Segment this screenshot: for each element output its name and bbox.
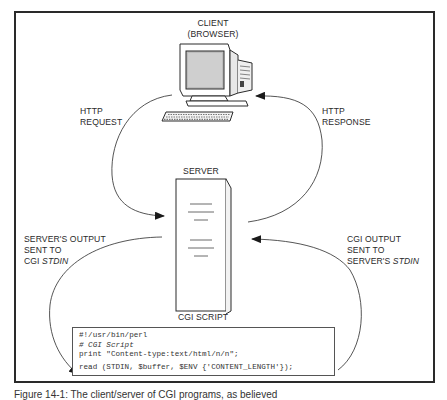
client-label-line2: (BROWSER) <box>183 29 243 40</box>
http-request-line1: HTTP <box>80 106 122 117</box>
server-label: SERVER <box>171 166 231 177</box>
computer-icon <box>162 44 252 121</box>
server-icon <box>176 179 231 314</box>
figure-caption: Figure 14-1: The client/server of CGI pr… <box>14 389 277 400</box>
http-response-arrow <box>248 96 322 222</box>
cgi-script-code-box: #!/usr/bin/perl # CGI Script print "Cont… <box>72 327 335 376</box>
http-request-line2: REQUEST <box>80 117 122 128</box>
client-label: CLIENT (BROWSER) <box>183 18 243 40</box>
cgi-output-label: CGI OUTPUT SENT TO SERVER'S STDIN <box>347 234 419 267</box>
server-output-line3: CGI STDIN <box>24 256 106 267</box>
cgi-script-label: CGI SCRIPT <box>163 312 243 323</box>
cgi-output-line2: SENT TO <box>347 245 419 256</box>
http-response-line1: HTTP <box>322 106 371 117</box>
code-line-comment: # CGI Script <box>79 341 328 351</box>
code-line-read: read (STDIN, $buffer, $ENV {'CONTENT_LEN… <box>79 363 328 373</box>
http-request-label: HTTP REQUEST <box>80 106 122 128</box>
server-output-line1: SERVER'S OUTPUT <box>24 234 106 245</box>
http-response-line2: RESPONSE <box>322 117 371 128</box>
code-line-print: print "Content-type:text/html/n/n"; <box>79 350 328 360</box>
cgi-output-line3: SERVER'S STDIN <box>347 256 419 267</box>
cgi-output-line1: CGI OUTPUT <box>347 234 419 245</box>
client-label-line1: CLIENT <box>183 18 243 29</box>
server-output-line2: SENT TO <box>24 245 106 256</box>
http-response-label: HTTP RESPONSE <box>322 106 371 128</box>
server-output-label: SERVER'S OUTPUT SENT TO CGI STDIN <box>24 234 106 267</box>
code-line-shebang: #!/usr/bin/perl <box>79 331 328 341</box>
